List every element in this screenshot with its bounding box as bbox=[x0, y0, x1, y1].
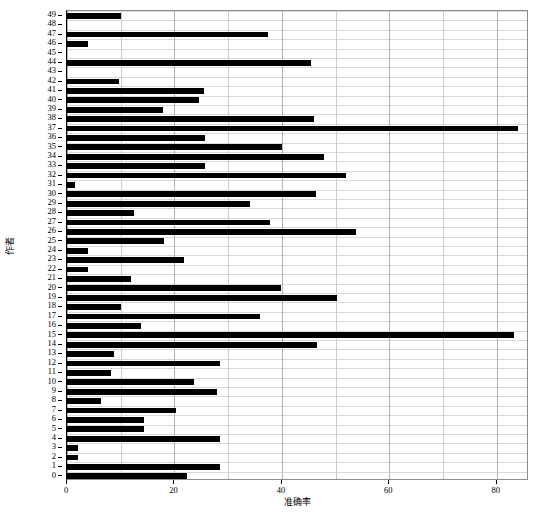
y-axis-tick-label: 49 bbox=[48, 10, 57, 19]
horizontal-gridline bbox=[67, 39, 527, 40]
y-axis-tick-mark bbox=[58, 34, 62, 35]
y-axis-tick-label: 46 bbox=[48, 38, 57, 47]
y-axis-tick-mark bbox=[58, 457, 62, 458]
y-axis-tick-label: 37 bbox=[48, 123, 57, 132]
y-axis-tick-label: 22 bbox=[48, 264, 57, 273]
vertical-gridline bbox=[336, 11, 337, 479]
y-axis-tick-mark bbox=[58, 212, 62, 213]
bar bbox=[67, 361, 220, 367]
horizontal-gridline bbox=[67, 396, 527, 397]
x-axis-tick-label: 20 bbox=[169, 485, 178, 495]
x-axis-tick-label: 40 bbox=[277, 485, 286, 495]
horizontal-gridline bbox=[67, 274, 527, 275]
y-axis-tick-mark bbox=[58, 344, 62, 345]
bar bbox=[67, 191, 316, 197]
y-axis-tick-mark bbox=[58, 52, 62, 53]
bar bbox=[67, 97, 199, 103]
y-axis-tick-mark bbox=[58, 146, 62, 147]
bar bbox=[67, 173, 346, 179]
x-axis-tick-mark bbox=[388, 480, 389, 484]
y-axis-tick-label: 44 bbox=[48, 57, 57, 66]
y-axis-tick-mark bbox=[58, 353, 62, 354]
y-axis-tick-label: 32 bbox=[48, 170, 57, 179]
y-axis-tick-mark bbox=[58, 99, 62, 100]
y-axis-tick-mark bbox=[58, 128, 62, 129]
vertical-gridline bbox=[389, 11, 390, 479]
bar bbox=[67, 332, 514, 338]
bar bbox=[67, 417, 144, 423]
y-axis-tick-label: 23 bbox=[48, 254, 57, 263]
y-axis-tick-mark bbox=[58, 109, 62, 110]
bar bbox=[67, 455, 78, 461]
y-axis-tick-label: 29 bbox=[48, 198, 57, 207]
x-axis-tick-mark bbox=[173, 480, 174, 484]
y-axis-tick-mark bbox=[58, 62, 62, 63]
y-axis-tick-label: 48 bbox=[48, 19, 57, 28]
y-axis-tick-mark bbox=[58, 240, 62, 241]
bar bbox=[67, 426, 144, 432]
y-axis-tick-mark bbox=[58, 231, 62, 232]
y-axis-tick-mark bbox=[58, 306, 62, 307]
bar bbox=[67, 295, 337, 301]
bar bbox=[67, 107, 163, 113]
y-axis-tick-mark bbox=[58, 297, 62, 298]
horizontal-gridline bbox=[67, 453, 527, 454]
y-axis-tick-label: 18 bbox=[48, 301, 57, 310]
bar bbox=[67, 408, 176, 414]
bar bbox=[67, 248, 88, 254]
y-axis-tick-mark bbox=[58, 278, 62, 279]
bar bbox=[67, 13, 121, 19]
horizontal-gridline bbox=[67, 368, 527, 369]
y-axis-tick-label: 27 bbox=[48, 217, 57, 226]
bar bbox=[67, 163, 205, 169]
y-axis-tick-mark bbox=[58, 24, 62, 25]
y-axis-tick-label: 33 bbox=[48, 160, 57, 169]
y-axis-tick-mark bbox=[58, 410, 62, 411]
y-axis-tick-label: 28 bbox=[48, 207, 57, 216]
y-axis-tick-mark bbox=[58, 466, 62, 467]
horizontal-gridline bbox=[67, 180, 527, 181]
y-axis-tick-mark bbox=[58, 259, 62, 260]
y-axis-tick-mark bbox=[58, 428, 62, 429]
bar bbox=[67, 135, 205, 141]
bar bbox=[67, 116, 314, 122]
x-axis-tick-label: 0 bbox=[64, 485, 68, 495]
y-axis-tick-label: 12 bbox=[48, 358, 57, 367]
y-axis-tick-mark bbox=[58, 419, 62, 420]
y-axis-tick-mark bbox=[58, 203, 62, 204]
horizontal-gridline bbox=[67, 208, 527, 209]
y-axis-tick-mark bbox=[58, 137, 62, 138]
y-axis-tick-mark bbox=[58, 118, 62, 119]
bar bbox=[67, 323, 141, 329]
bar bbox=[67, 220, 270, 226]
bar bbox=[67, 257, 184, 263]
bar bbox=[67, 154, 324, 160]
y-axis-tick-mark bbox=[58, 400, 62, 401]
y-axis-tick-label: 47 bbox=[48, 29, 57, 38]
bar bbox=[67, 210, 134, 216]
y-axis-tick-label: 34 bbox=[48, 151, 57, 160]
y-axis-tick-label: 40 bbox=[48, 95, 57, 104]
bar bbox=[67, 88, 204, 94]
y-axis-tick-label: 9 bbox=[52, 386, 56, 395]
y-axis-tick-label: 1 bbox=[52, 461, 56, 470]
y-axis-tick-mark bbox=[58, 43, 62, 44]
y-axis-tick-mark bbox=[58, 438, 62, 439]
vertical-gridline bbox=[228, 11, 229, 479]
y-axis-tick-label: 6 bbox=[52, 414, 56, 423]
y-axis-tick-mark bbox=[58, 184, 62, 185]
bar bbox=[67, 41, 88, 47]
y-axis-tick-label: 31 bbox=[48, 179, 57, 188]
horizontal-gridline bbox=[67, 246, 527, 247]
y-axis-tick-label: 17 bbox=[48, 311, 57, 320]
horizontal-gridline bbox=[67, 67, 527, 68]
y-axis-tick-label: 15 bbox=[48, 330, 57, 339]
y-axis-tick-label: 39 bbox=[48, 104, 57, 113]
vertical-gridline bbox=[497, 11, 498, 479]
y-axis-tick-mark bbox=[58, 165, 62, 166]
y-axis-tick-mark bbox=[58, 15, 62, 16]
bar bbox=[67, 314, 260, 320]
y-axis-tick-mark bbox=[58, 222, 62, 223]
bar bbox=[67, 267, 88, 273]
bar bbox=[67, 473, 187, 479]
